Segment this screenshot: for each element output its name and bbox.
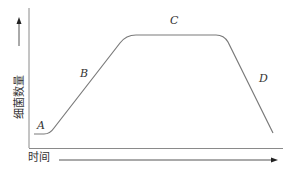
y-axis-label: 细菌数量 xyxy=(13,75,26,119)
y-arrow-icon xyxy=(17,17,22,24)
x-axis-label: 时间 xyxy=(28,151,50,164)
phase-label-b: B xyxy=(79,67,88,80)
phase-label-d: D xyxy=(258,72,268,85)
growth-curve xyxy=(34,35,273,134)
x-arrow-icon xyxy=(271,158,278,163)
phase-label-a: A xyxy=(36,119,45,132)
phase-label-c: C xyxy=(170,14,179,27)
growth-curve-chart: 细菌数量 时间 A B C D xyxy=(0,0,289,172)
